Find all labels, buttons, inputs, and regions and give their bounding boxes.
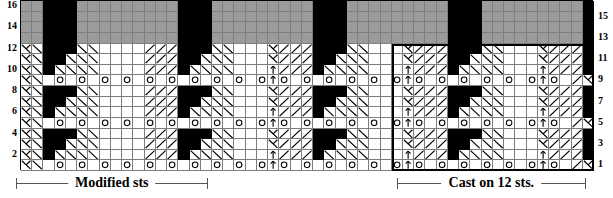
chart-cell[interactable]: [212, 129, 223, 140]
chart-cell[interactable]: [336, 44, 347, 55]
chart-cell[interactable]: [190, 75, 201, 86]
chart-cell[interactable]: [268, 97, 279, 108]
chart-cell[interactable]: [167, 12, 178, 23]
chart-cell[interactable]: [437, 33, 448, 44]
chart-cell[interactable]: [201, 22, 212, 33]
chart-cell[interactable]: [459, 97, 470, 108]
chart-cell[interactable]: [190, 65, 201, 76]
chart-cell[interactable]: [43, 118, 54, 129]
chart-cell[interactable]: [201, 129, 212, 140]
chart-cell[interactable]: [347, 1, 358, 12]
chart-cell[interactable]: [167, 118, 178, 129]
chart-cell[interactable]: [178, 107, 189, 118]
chart-cell[interactable]: [358, 12, 369, 23]
chart-cell[interactable]: [549, 44, 560, 55]
chart-cell[interactable]: [291, 150, 302, 161]
chart-cell[interactable]: [111, 118, 122, 129]
chart-cell[interactable]: [302, 86, 313, 97]
chart-cell[interactable]: [437, 160, 448, 171]
chart-cell[interactable]: [381, 129, 392, 140]
chart-cell[interactable]: [470, 65, 481, 76]
chart-cell[interactable]: [560, 139, 571, 150]
chart-cell[interactable]: [212, 86, 223, 97]
chart-cell[interactable]: [493, 107, 504, 118]
chart-cell[interactable]: [459, 75, 470, 86]
chart-cell[interactable]: [549, 12, 560, 23]
chart-cell[interactable]: [257, 65, 268, 76]
chart-cell[interactable]: [246, 65, 257, 76]
chart-cell[interactable]: [493, 75, 504, 86]
chart-cell[interactable]: [122, 33, 133, 44]
chart-cell[interactable]: [425, 12, 436, 23]
chart-cell[interactable]: [32, 44, 43, 55]
chart-cell[interactable]: [279, 1, 290, 12]
chart-cell[interactable]: [178, 75, 189, 86]
chart-cell[interactable]: [572, 75, 583, 86]
chart-cell[interactable]: [88, 139, 99, 150]
chart-cell[interactable]: [336, 33, 347, 44]
chart-cell[interactable]: [268, 44, 279, 55]
chart-cell[interactable]: [167, 139, 178, 150]
chart-cell[interactable]: [223, 1, 234, 12]
chart-cell[interactable]: [279, 65, 290, 76]
chart-cell[interactable]: [43, 75, 54, 86]
chart-cell[interactable]: [122, 22, 133, 33]
chart-cell[interactable]: [527, 12, 538, 23]
chart-cell[interactable]: [414, 150, 425, 161]
chart-cell[interactable]: [437, 139, 448, 150]
chart-cell[interactable]: [358, 86, 369, 97]
chart-cell[interactable]: [178, 139, 189, 150]
chart-cell[interactable]: [55, 22, 66, 33]
chart-cell[interactable]: [482, 1, 493, 12]
chart-cell[interactable]: [223, 75, 234, 86]
chart-cell[interactable]: [313, 33, 324, 44]
chart-cell[interactable]: [313, 129, 324, 140]
chart-cell[interactable]: [302, 65, 313, 76]
chart-cell[interactable]: [493, 118, 504, 129]
chart-cell[interactable]: [43, 107, 54, 118]
chart-cell[interactable]: [549, 65, 560, 76]
chart-cell[interactable]: [212, 139, 223, 150]
chart-cell[interactable]: [515, 97, 526, 108]
chart-cell[interactable]: [549, 129, 560, 140]
chart-cell[interactable]: [482, 150, 493, 161]
chart-cell[interactable]: [111, 139, 122, 150]
chart-cell[interactable]: [32, 65, 43, 76]
chart-cell[interactable]: [493, 12, 504, 23]
chart-cell[interactable]: [560, 107, 571, 118]
chart-cell[interactable]: [302, 75, 313, 86]
chart-cell[interactable]: [504, 129, 515, 140]
chart-cell[interactable]: [527, 139, 538, 150]
chart-cell[interactable]: [538, 86, 549, 97]
chart-cell[interactable]: [504, 160, 515, 171]
chart-cell[interactable]: [369, 139, 380, 150]
chart-cell[interactable]: [21, 86, 32, 97]
chart-cell[interactable]: [178, 129, 189, 140]
chart-cell[interactable]: [527, 118, 538, 129]
chart-cell[interactable]: [133, 65, 144, 76]
chart-cell[interactable]: [212, 118, 223, 129]
chart-cell[interactable]: [55, 12, 66, 23]
chart-cell[interactable]: [234, 107, 245, 118]
chart-cell[interactable]: [369, 33, 380, 44]
chart-cell[interactable]: [201, 97, 212, 108]
chart-cell[interactable]: [313, 1, 324, 12]
chart-cell[interactable]: [470, 33, 481, 44]
chart-cell[interactable]: [324, 139, 335, 150]
chart-cell[interactable]: [55, 65, 66, 76]
chart-cell[interactable]: [201, 44, 212, 55]
chart-cell[interactable]: [32, 160, 43, 171]
chart-cell[interactable]: [515, 107, 526, 118]
chart-cell[interactable]: [66, 22, 77, 33]
chart-cell[interactable]: [88, 65, 99, 76]
chart-cell[interactable]: [493, 44, 504, 55]
chart-cell[interactable]: [515, 33, 526, 44]
chart-cell[interactable]: [190, 86, 201, 97]
chart-cell[interactable]: [448, 107, 459, 118]
chart-cell[interactable]: [246, 54, 257, 65]
chart-cell[interactable]: [527, 33, 538, 44]
chart-cell[interactable]: [167, 129, 178, 140]
chart-cell[interactable]: [493, 65, 504, 76]
chart-cell[interactable]: [448, 75, 459, 86]
chart-cell[interactable]: [358, 54, 369, 65]
